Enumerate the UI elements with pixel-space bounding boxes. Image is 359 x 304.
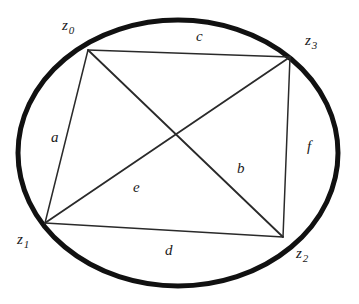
chord-c bbox=[88, 50, 290, 57]
edge-label-e: e bbox=[133, 180, 140, 195]
vertex-label-z0: z0 bbox=[62, 18, 73, 33]
vertex-label-z1-subscript: 1 bbox=[24, 238, 30, 250]
figure-canvas: z0 z3 z1 z2 a c f d e b bbox=[0, 0, 359, 304]
vertex-label-z1-base: z bbox=[17, 231, 23, 247]
chord-b bbox=[88, 50, 283, 237]
vertex-label-z3: z3 bbox=[305, 33, 316, 48]
vertex-label-z3-subscript: 3 bbox=[312, 39, 318, 51]
chord-f bbox=[283, 57, 290, 237]
vertex-label-z0-base: z bbox=[62, 17, 68, 33]
chord-e bbox=[45, 57, 290, 223]
vertex-label-z1: z1 bbox=[17, 232, 28, 247]
vertex-label-z3-base: z bbox=[305, 32, 311, 48]
vertex-label-z2-base: z bbox=[296, 245, 302, 261]
edge-label-f: f bbox=[307, 139, 311, 154]
vertex-label-z2-subscript: 2 bbox=[303, 252, 309, 264]
edge-label-b: b bbox=[237, 161, 245, 176]
vertex-label-z2: z2 bbox=[296, 246, 307, 261]
edge-label-d: d bbox=[165, 243, 173, 258]
edge-label-c: c bbox=[196, 29, 203, 44]
vertex-label-z0-subscript: 0 bbox=[69, 24, 75, 36]
edge-label-a: a bbox=[51, 130, 59, 145]
chord-d bbox=[45, 223, 283, 237]
